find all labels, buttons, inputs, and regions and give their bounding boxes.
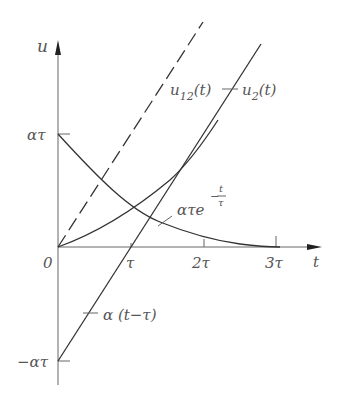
x-tick-label-tau: τ [126,254,135,272]
origin-label: 0 [43,254,53,272]
label-decay-exp-den: τ [218,197,224,208]
x-tick-label-2tau: 2τ [191,254,211,272]
curve-u2 [58,120,218,247]
y-axis-label: u [37,36,48,56]
label-decay-exp-num: t [219,183,224,194]
label-u2: u2(t) [242,81,277,103]
x-axis-arrow-icon [307,244,322,250]
y-tick-label-alpha-tau: ατ [27,126,46,144]
y-axis-arrow-icon [55,40,61,55]
label-ramp: α (t−τ) [103,306,157,324]
x-axis-label: t [313,253,320,271]
y-tick-label-neg-alpha-tau: −ατ [17,353,49,371]
diagram: u t 0 τ 2τ 3τ ατ −ατ u12(t) u2(t) ατe − … [0,0,342,398]
label-u12: u12(t) [170,81,212,103]
curve-decay [58,134,280,247]
label-decay: ατe [177,201,204,219]
x-tick-label-3tau: 3τ [265,254,284,272]
